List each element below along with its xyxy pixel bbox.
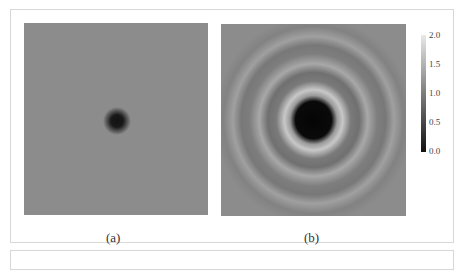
panel-a-label: (a) <box>106 230 120 246</box>
colorbar-tick: 0.0 <box>429 147 440 156</box>
colorbar-tick: 2.0 <box>429 31 440 40</box>
next-figure-frame <box>10 250 454 270</box>
panel-b-image <box>221 24 406 216</box>
colorbar-tick: 1.0 <box>429 89 440 98</box>
panel-b-label: (b) <box>304 230 319 246</box>
colorbar-tick: 1.5 <box>429 60 440 69</box>
colorbar-tick: 0.5 <box>429 118 440 127</box>
colorbar <box>421 35 426 152</box>
panel-a-image <box>24 23 208 215</box>
